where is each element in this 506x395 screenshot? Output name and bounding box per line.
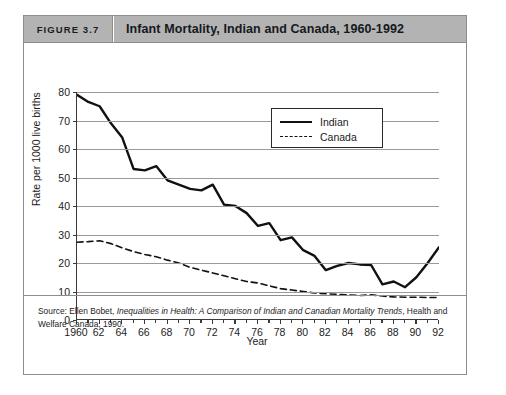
gridline xyxy=(77,92,439,93)
y-tick-mark xyxy=(73,121,77,122)
figure-header: FIGURE 3.7 Infant Mortality, Indian and … xyxy=(24,16,466,43)
gridline xyxy=(77,292,439,293)
gridline xyxy=(77,121,439,122)
plot-area: 01020304050607080 xyxy=(76,92,438,320)
y-tick-mark xyxy=(73,263,77,264)
x-axis-title: Year xyxy=(76,335,438,347)
y-tick-mark xyxy=(73,235,77,236)
legend-swatch-dashed-icon xyxy=(280,132,312,142)
source-prefix: Source: Ellen Bobet, xyxy=(38,306,117,316)
series-line-canada xyxy=(77,241,439,298)
source-title-italic: Inequalities in Health: A Comparison of … xyxy=(117,306,403,316)
y-tick-mark xyxy=(73,292,77,293)
y-tick-mark xyxy=(73,149,77,150)
chart-legend: IndianCanada xyxy=(271,108,383,148)
legend-item-indian: Indian xyxy=(280,114,382,129)
y-tick-mark xyxy=(73,178,77,179)
chart-region: Rate per 1000 live births 01020304050607… xyxy=(24,43,466,321)
y-tick-mark xyxy=(73,206,77,207)
y-tick-label: 50 xyxy=(40,172,70,184)
y-tick-label: 60 xyxy=(40,143,70,155)
figure-number-label: FIGURE 3.7 xyxy=(24,24,112,35)
figure-title: Infant Mortality, Indian and Canada, 196… xyxy=(114,22,404,36)
y-tick-label: 70 xyxy=(40,115,70,127)
gridline xyxy=(77,235,439,236)
gridline xyxy=(77,263,439,264)
gridline xyxy=(77,149,439,150)
gridline xyxy=(77,178,439,179)
legend-item-canada: Canada xyxy=(280,129,382,144)
y-tick-label: 20 xyxy=(40,257,70,269)
series-line-indian xyxy=(77,95,439,287)
y-tick-label: 40 xyxy=(40,200,70,212)
figure-card: FIGURE 3.7 Infant Mortality, Indian and … xyxy=(23,15,467,375)
y-tick-label: 80 xyxy=(40,86,70,98)
y-tick-mark xyxy=(73,92,77,93)
legend-label: Indian xyxy=(320,116,349,128)
y-tick-label: 30 xyxy=(40,229,70,241)
gridline xyxy=(77,206,439,207)
source-note: Source: Ellen Bobet, Inequalities in Hea… xyxy=(24,295,466,331)
legend-label: Canada xyxy=(320,131,357,143)
legend-swatch-solid-icon xyxy=(280,117,312,127)
